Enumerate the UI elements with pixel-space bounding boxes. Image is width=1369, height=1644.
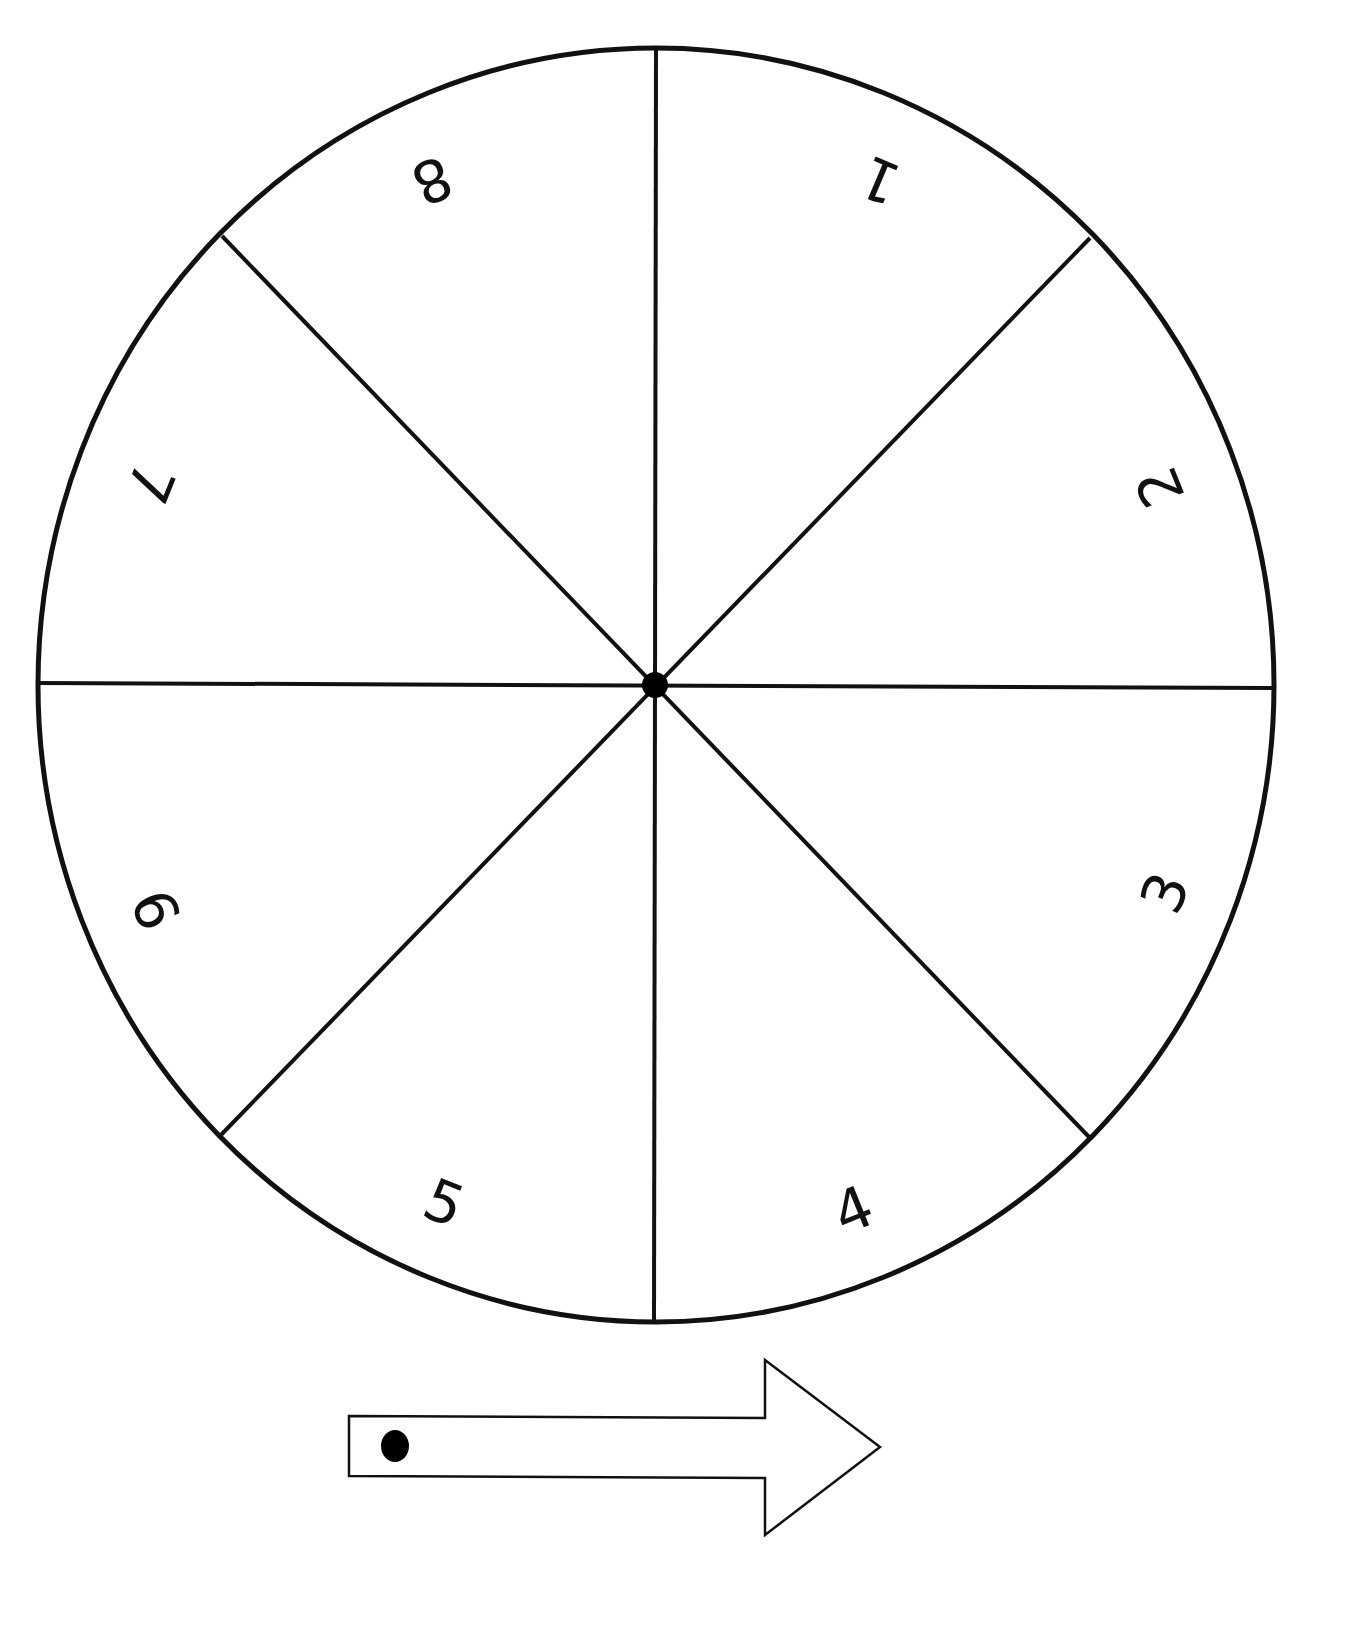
spinner-diagram: 1 2 3 4 5 6 7 8 [0,0,1369,1644]
center-pin [642,672,668,698]
pointer-arrow [349,1360,880,1535]
arrow-icon [349,1360,880,1535]
pivot-hole-dot [381,1430,409,1462]
spinner-wheel: 1 2 3 4 5 6 7 8 [38,48,1274,1322]
